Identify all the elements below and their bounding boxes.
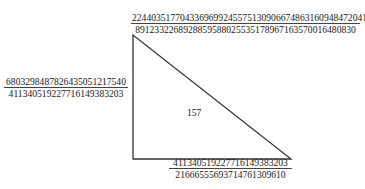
horizontal-side-denominator: 21666555693714761309610 — [169, 169, 292, 180]
horizontal-side-numerator: 411340519227716149383203 — [169, 157, 292, 169]
horizontal-side-label: 411340519227716149383203 216665556937147… — [169, 157, 292, 180]
vertical-side-denominator: 411340519227716149383203 — [4, 88, 128, 99]
area-label: 157 — [187, 107, 201, 118]
hypotenuse-numerator: 2244035177043369699245575130906674863160… — [131, 12, 360, 24]
hypotenuse-denominator: 8912332268928859588025535178967163570016… — [131, 24, 360, 35]
vertical-side-label: 6803298487826435051217540 41134051922771… — [4, 76, 128, 99]
vertical-side-numerator: 6803298487826435051217540 — [4, 76, 128, 88]
hypotenuse-label: 2244035177043369699245575130906674863160… — [131, 12, 360, 35]
